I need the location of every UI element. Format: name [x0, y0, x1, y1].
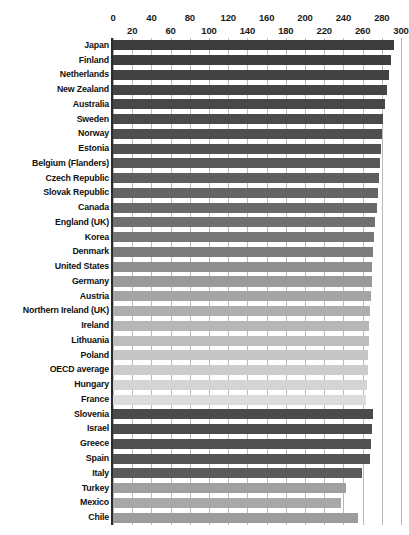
x-tick-label: 40 — [146, 12, 156, 23]
category-label: Slovenia — [0, 409, 109, 419]
bar-row — [113, 363, 401, 378]
bar[interactable] — [113, 129, 382, 139]
bar[interactable] — [113, 395, 366, 405]
x-tick-label: 280 — [374, 12, 389, 23]
category-axis-labels: JapanFinlandNetherlandsNew ZealandAustra… — [0, 38, 109, 525]
bar-row — [113, 274, 401, 289]
category-label: Poland — [0, 350, 109, 360]
bar-row — [113, 38, 401, 53]
x-tick-label: 60 — [166, 25, 176, 36]
bar-row — [113, 230, 401, 245]
bar[interactable] — [113, 291, 371, 301]
bar-rows — [113, 38, 401, 525]
bar[interactable] — [113, 439, 371, 449]
x-tick-label: 100 — [201, 25, 216, 36]
bar[interactable] — [113, 262, 372, 272]
category-label: Italy — [0, 468, 109, 478]
bar-row — [113, 171, 401, 186]
bar[interactable] — [113, 217, 375, 227]
bar-row — [113, 68, 401, 83]
bar-row — [113, 436, 401, 451]
bar-row — [113, 215, 401, 230]
bar[interactable] — [113, 321, 369, 331]
bar[interactable] — [113, 454, 370, 464]
bar-row — [113, 259, 401, 274]
category-label: Japan — [0, 40, 109, 50]
bar[interactable] — [113, 173, 379, 183]
bar[interactable] — [113, 498, 341, 508]
category-label: Israel — [0, 423, 109, 433]
category-label: England (UK) — [0, 217, 109, 227]
bar[interactable] — [113, 40, 394, 50]
bar[interactable] — [113, 114, 383, 124]
category-label: Spain — [0, 453, 109, 463]
bar[interactable] — [113, 158, 380, 168]
bar[interactable] — [113, 380, 367, 390]
category-label: Netherlands — [0, 69, 109, 79]
bar-row — [113, 451, 401, 466]
bar-row — [113, 348, 401, 363]
x-tick-label: 160 — [259, 12, 274, 23]
bar[interactable] — [113, 247, 373, 257]
bar[interactable] — [113, 55, 391, 65]
gridline — [401, 38, 402, 525]
bar-row — [113, 97, 401, 112]
bar[interactable] — [113, 336, 369, 346]
x-tick-label: 0 — [110, 12, 115, 23]
category-label: Belgium (Flanders) — [0, 158, 109, 168]
bar[interactable] — [113, 306, 370, 316]
category-label: United States — [0, 261, 109, 271]
category-label: Northern Ireland (UK) — [0, 305, 109, 315]
category-label: Czech Republic — [0, 173, 109, 183]
x-tick-label: 260 — [355, 25, 370, 36]
bar[interactable] — [113, 350, 368, 360]
bar-row — [113, 289, 401, 304]
category-label: Sweden — [0, 114, 109, 124]
category-label: Germany — [0, 276, 109, 286]
category-label: Australia — [0, 99, 109, 109]
category-label: New Zealand — [0, 84, 109, 94]
bar-row — [113, 245, 401, 260]
x-tick-label: 20 — [127, 25, 137, 36]
bar-row — [113, 141, 401, 156]
bar[interactable] — [113, 483, 346, 493]
bar-row — [113, 156, 401, 171]
bar-row — [113, 481, 401, 496]
bar[interactable] — [113, 144, 381, 154]
bar[interactable] — [113, 409, 373, 419]
bar-row — [113, 495, 401, 510]
bar[interactable] — [113, 70, 389, 80]
category-label: OECD average — [0, 364, 109, 374]
x-tick-label: 120 — [221, 12, 236, 23]
bar[interactable] — [113, 365, 368, 375]
category-label: Greece — [0, 438, 109, 448]
bar-row — [113, 318, 401, 333]
plot-area — [113, 38, 401, 525]
category-label: Mexico — [0, 497, 109, 507]
bar-row — [113, 333, 401, 348]
x-tick-label: 220 — [317, 25, 332, 36]
category-label: Finland — [0, 55, 109, 65]
category-label: Denmark — [0, 246, 109, 256]
category-label: Canada — [0, 202, 109, 212]
bar[interactable] — [113, 468, 362, 478]
category-label: Korea — [0, 232, 109, 242]
category-label: Estonia — [0, 143, 109, 153]
category-label: Lithuania — [0, 335, 109, 345]
bar[interactable] — [113, 85, 387, 95]
bar-row — [113, 82, 401, 97]
bar[interactable] — [113, 99, 385, 109]
bar[interactable] — [113, 232, 374, 242]
bar[interactable] — [113, 513, 358, 523]
x-tick-label: 140 — [240, 25, 255, 36]
bar-row — [113, 200, 401, 215]
bar-row — [113, 392, 401, 407]
bar[interactable] — [113, 276, 372, 286]
bar-row — [113, 377, 401, 392]
bar[interactable] — [113, 188, 378, 198]
bar[interactable] — [113, 203, 377, 213]
x-axis-tick-labels: 0408012016020024028020601001401802202603… — [0, 0, 407, 36]
bar-row — [113, 127, 401, 142]
bar[interactable] — [113, 424, 372, 434]
